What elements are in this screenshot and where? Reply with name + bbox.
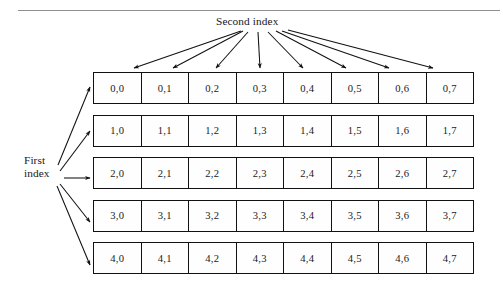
array-cell: 0,0: [94, 73, 142, 103]
array-row: 1,0 1,1 1,2 1,3 1,4 1,5 1,6 1,7: [93, 115, 474, 147]
array-cell: 1,4: [284, 116, 332, 146]
array-cell: 0,5: [332, 73, 380, 103]
array-cell: 1,2: [189, 116, 237, 146]
array-cell: 0,6: [379, 73, 427, 103]
first-index-label: First index: [24, 154, 50, 180]
array-cell: 0,1: [142, 73, 190, 103]
second-index-arrow-5: [276, 31, 346, 68]
second-index-arrow-3: [258, 32, 260, 68]
array-cell: 1,0: [94, 116, 142, 146]
second-index-arrow-6: [282, 31, 389, 68]
array-cell: 4,5: [332, 243, 380, 273]
array-cell: 1,5: [332, 116, 380, 146]
array-cell: 1,1: [142, 116, 190, 146]
array-cell: 0,2: [189, 73, 237, 103]
second-index-arrow-1: [173, 31, 243, 68]
array-cell: 3,6: [379, 201, 427, 231]
second-index-arrow-4: [268, 32, 303, 68]
array-cell: 1,7: [427, 116, 474, 146]
second-index-arrow-0: [134, 31, 241, 68]
array-row: 2,0 2,1 2,2 2,3 2,4 2,5 2,6 2,7: [93, 157, 474, 189]
array-cell: 4,2: [189, 243, 237, 273]
array-cell: 4,3: [237, 243, 285, 273]
array-cell: 4,1: [142, 243, 190, 273]
first-index-label-line1: First: [24, 154, 50, 167]
array-cell: 1,3: [237, 116, 285, 146]
array-cell: 0,4: [284, 73, 332, 103]
array-cell: 3,1: [142, 201, 190, 231]
array-cell: 1,6: [379, 116, 427, 146]
array-row: 3,0 3,1 3,2 3,3 3,4 3,5 3,6 3,7: [93, 200, 474, 232]
array-cell: 3,4: [284, 201, 332, 231]
array-cell: 2,7: [427, 158, 474, 188]
array-cell: 4,0: [94, 243, 142, 273]
array-cell: 2,4: [284, 158, 332, 188]
first-index-arrow-0: [58, 87, 90, 165]
array-row: 0,0 0,1 0,2 0,3 0,4 0,5 0,6 0,7: [93, 72, 474, 104]
array-cell: 3,0: [94, 201, 142, 231]
second-index-arrow-7: [288, 30, 433, 68]
array-cell: 3,5: [332, 201, 380, 231]
first-index-arrow-4: [57, 186, 90, 265]
array-index-diagram: Second index First index 0,0 0,1 0,2 0,3…: [0, 0, 503, 303]
array-cell: 3,3: [237, 201, 285, 231]
second-index-arrow-2: [216, 32, 248, 68]
array-cell: 4,7: [427, 243, 474, 273]
array-cell: 2,3: [237, 158, 285, 188]
array-cell: 2,2: [189, 158, 237, 188]
second-index-label: Second index: [216, 15, 278, 28]
array-cell: 3,2: [189, 201, 237, 231]
array-cell: 0,3: [237, 73, 285, 103]
array-cell: 2,0: [94, 158, 142, 188]
array-cell: 4,6: [379, 243, 427, 273]
first-index-arrow-group: [57, 87, 90, 265]
array-cell: 3,7: [427, 201, 474, 231]
first-index-arrow-1: [60, 131, 90, 171]
array-cell: 4,4: [284, 243, 332, 273]
header-rule: [18, 10, 500, 11]
second-index-arrow-group: [134, 30, 433, 68]
array-row: 4,0 4,1 4,2 4,3 4,4 4,5 4,6 4,7: [93, 242, 474, 274]
first-index-arrow-3: [60, 184, 90, 222]
first-index-label-line2: index: [24, 167, 50, 180]
array-cell: 2,6: [379, 158, 427, 188]
array-cell: 2,1: [142, 158, 190, 188]
array-cell: 2,5: [332, 158, 380, 188]
array-cell: 0,7: [427, 73, 474, 103]
